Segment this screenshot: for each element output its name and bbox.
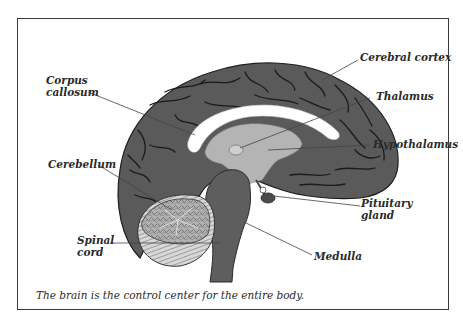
label-corpus-callosum: Corpus callosum — [46, 74, 99, 98]
label-cerebellum: Cerebellum — [48, 158, 116, 170]
thalamus-nucleus — [229, 145, 243, 155]
label-thalamus: Thalamus — [376, 90, 434, 102]
label-spinal-line1: Spinal — [77, 234, 114, 246]
label-corpus-callosum-line2: callosum — [46, 86, 99, 98]
label-pituitary-line2: gland — [361, 209, 413, 221]
label-pituitary-gland: Pituitary gland — [361, 197, 413, 221]
label-corpus-callosum-line1: Corpus — [46, 74, 99, 86]
label-spinal-cord: Spinal cord — [77, 234, 114, 258]
label-pituitary-line1: Pituitary — [361, 197, 413, 209]
label-hypothalamus: Hypothalamus — [373, 138, 458, 150]
pituitary-gland-shape — [261, 193, 275, 203]
figure-caption: The brain is the control center for the … — [36, 289, 304, 301]
label-medulla: Medulla — [314, 250, 362, 262]
label-cerebral-cortex: Cerebral cortex — [360, 51, 451, 63]
label-spinal-line2: cord — [77, 246, 114, 258]
